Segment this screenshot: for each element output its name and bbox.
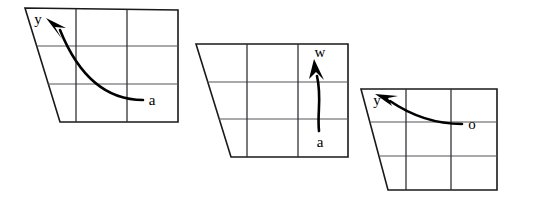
- panel-right-outline: [361, 89, 497, 190]
- panel-left-target-label: y: [34, 11, 42, 27]
- panel-middle-source-label: a: [317, 134, 324, 150]
- figure-root: y a w a y o: [0, 0, 536, 213]
- panel-right: y o: [361, 89, 497, 190]
- panel-left-source-label: a: [149, 92, 156, 108]
- panel-middle-outline: [196, 44, 348, 157]
- panel-left: y a: [25, 8, 178, 122]
- diagram-canvas: y a w a y o: [0, 0, 536, 213]
- panel-middle-target-label: w: [315, 44, 326, 60]
- panel-middle: w a: [196, 44, 348, 157]
- panel-right-target-label: y: [373, 92, 381, 108]
- panel-right-source-label: o: [468, 116, 476, 132]
